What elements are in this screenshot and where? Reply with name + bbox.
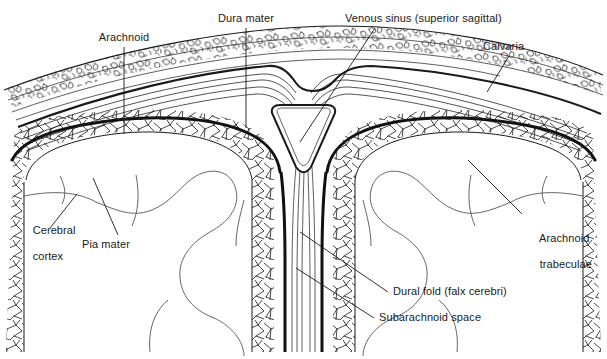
cortical-sulcus-right-4 (363, 200, 371, 246)
anatomy-figure: Arachnoid Dura mater Venous sinus (super… (0, 0, 607, 359)
falx-fiber-4 (308, 170, 310, 352)
cortical-sulcus-left-5 (150, 300, 168, 352)
falx-fiber-5 (312, 167, 315, 352)
label-calvaria: Calvaria (483, 40, 583, 53)
falx-fiber-2 (297, 170, 300, 352)
label-venous-sinus: Venous sinus (superior sagittal) (345, 12, 595, 25)
label-subarachnoid-space: Subarachnoid space (379, 311, 579, 324)
label-dural-fold: Dural fold (falx cerebri) (393, 285, 593, 298)
label-cerebral-cortex-line1: Cerebral (33, 224, 76, 236)
dural-fold-falx-cerebri (281, 167, 326, 352)
cortical-sulcus-right-5 (439, 300, 457, 352)
label-pia-mater: Pia mater (82, 238, 172, 251)
label-dura-mater: Dura mater (196, 12, 296, 25)
label-arachnoid: Arachnoid (76, 31, 172, 44)
cortical-sulcus-left-1 (96, 171, 244, 356)
falx-margin-right (322, 172, 326, 352)
label-arachnoid-trabeculae: Arachnoid trabeculae (527, 219, 607, 284)
pia-mater-left-edge (24, 193, 96, 202)
cortical-sulcus-right-3 (542, 176, 547, 204)
falx-fiber-1 (292, 167, 296, 352)
cortical-sulcus-right-1 (363, 171, 511, 356)
falx-fiber-3 (302, 172, 304, 352)
label-cerebral-cortex-line2: cortex (33, 250, 64, 262)
leader-arachnoid-trabeculae (468, 160, 522, 214)
cortical-sulcus-left-2 (132, 175, 138, 226)
cortical-sulcus-right-2 (469, 175, 475, 226)
cortical-sulcus-left-3 (60, 176, 65, 204)
label-arachnoid-trabeculae-line1: Arachnoid (539, 232, 589, 244)
label-arachnoid-trabeculae-line2: trabeculae (540, 258, 592, 270)
pia-mater-right-edge (511, 193, 583, 202)
meninges-cross-section-svg (0, 0, 607, 359)
venous-sinus-lumen (272, 105, 335, 172)
falx-margin-left (281, 172, 285, 352)
cortical-sulcus-left-4 (236, 200, 244, 246)
